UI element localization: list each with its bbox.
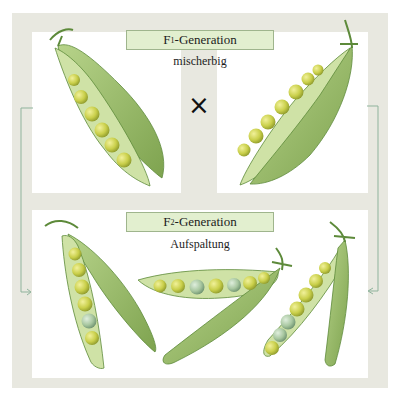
f1-label-suffix: -Generation [175,32,237,48]
f1-pod-left [50,29,164,186]
f2-sublabel: Aufspaltung [126,237,274,252]
f2-generation-label: F2-Generation [126,212,274,232]
f1-sublabel: mischerbig [126,54,274,69]
f1-label-prefix: F [163,32,170,48]
cross-symbol: × [186,92,212,118]
arrow-right-bracket [367,106,378,294]
f1-generation-label: F1-Generation [126,30,274,50]
f2-pod-right [264,222,355,366]
arrow-left-bracket [21,108,33,295]
f2-label-suffix: -Generation [175,214,237,230]
f2-label-prefix: F [163,214,170,230]
